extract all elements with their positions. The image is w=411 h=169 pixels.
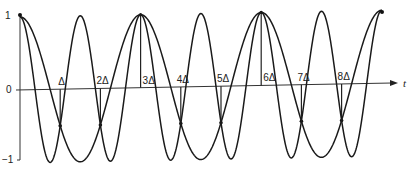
y-tick-label-1: 1 [5,10,11,21]
t-axis-label: t [403,77,407,89]
sample-label: 5Δ [217,73,230,84]
sample-label: 8Δ [338,71,351,82]
sample-label: Δ [58,76,65,87]
aliasing-diagram: 1 0 −1 t Δ2Δ3Δ4Δ5Δ6Δ7Δ8Δ [0,0,411,169]
t-axis [16,83,392,90]
sample-label: 6Δ [263,72,276,83]
sample-label: 2Δ [96,75,109,86]
y-tick-label-0: 0 [6,84,12,95]
start-point-dot [18,13,22,17]
y-tick-label-minus-1: −1 [2,154,14,165]
sample-label: 3Δ [143,75,156,86]
sample-markers: Δ2Δ3Δ4Δ5Δ6Δ7Δ8Δ [58,11,350,128]
end-point-dot [380,10,384,14]
t-axis-arrowhead-icon [390,80,398,86]
